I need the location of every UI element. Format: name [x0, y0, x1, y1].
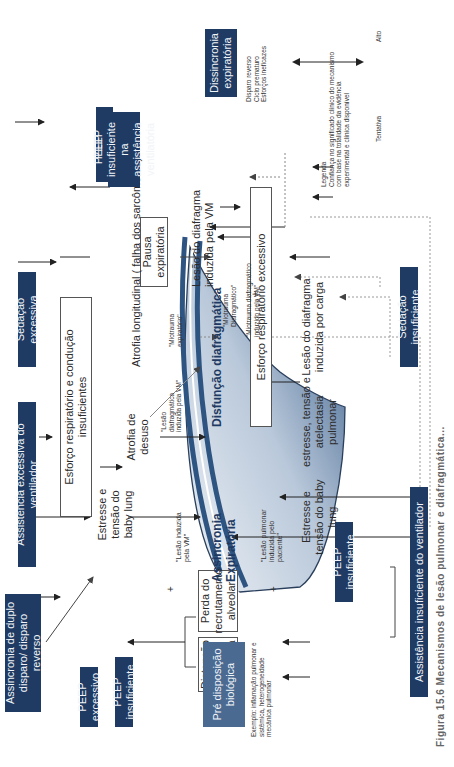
legend-text: Confiança no significado clínico do meca… [328, 47, 351, 187]
cause-sedacao-insuficiente: Sedação insuficiente [400, 267, 418, 367]
cause-dissincronia-expiratoria: Dissincronia expiratória [205, 29, 237, 97]
box-esforco-insuficientes: Esforço respiratório e condução insufici… [60, 297, 92, 517]
legend-low-label: Tentativa [375, 116, 383, 142]
legend-title: Legenda [320, 47, 328, 187]
cause-peep-insuficiente-assistencia-label: PEEP insuficiente na assistência ventila… [92, 116, 157, 183]
figure-caption: Figura 15.6 Mecanismos de lesão pulmonar… [435, 247, 446, 747]
label-miotrauma-expiratorio: "Miotrauma expiratório" [168, 297, 183, 347]
cause-peep-insuficiente-assistencia: PEEP insuficiente na assistência ventila… [108, 112, 140, 187]
cause-assincronia-duplo-disparo: Assincronia de duplo disparo/ disparo re… [5, 594, 41, 712]
cause-dissincronia-expiratoria-label: Dissincronia expiratória [208, 33, 234, 93]
cause-assistencia-excessiva-label: Assistência excessiva do ventilador [14, 406, 40, 563]
label-atrofia-desuso: Atrofia de desuso [125, 407, 151, 467]
cause-peep-insuficiente-label: PEEP insuficiente [111, 661, 137, 723]
cause-sedacao-excessiva-label: Sedação excessiva [14, 276, 40, 363]
dissincronia-item: Ciclo prematuro [253, 22, 261, 102]
label-lesao-diafragmatica-vm: "Lesão diafragmática induzida pela VM" [160, 372, 183, 432]
diagram-canvas: Assincronia de duplo disparo/ disparo re… [0, 0, 454, 767]
label-disfuncao-diafragmatica: Disfunção diafragmática [210, 277, 224, 427]
predisposicao-example: Exemplo: inflamação pulmonar e sistêmica… [250, 637, 273, 737]
legend-high-label: Alto [375, 31, 383, 42]
cause-predisposicao-biologica-label: Pré disposição biológica [211, 646, 237, 723]
cause-predisposicao-biologica: Pré disposição biológica [203, 642, 245, 727]
label-estresse-atelectasia: estresse, tensão e atelectasia pulmonar [300, 372, 339, 472]
label-miotrauma-diafragmatico: "Miotrauma Diafragmático" [222, 272, 237, 327]
label-lesao-diafragma-vm: Lesão do diafragma induzida pela VM [190, 172, 216, 287]
label-lesao-diafragma-carga: Lesão do diafragma induzida por carga [300, 277, 326, 377]
cause-assistencia-excessiva: Assistência excessiva do ventilador [18, 402, 36, 567]
box-pausa-expiratoria-label: Pausa expiratória [141, 222, 167, 282]
dissincronia-item: Esforços ineficazes [260, 22, 268, 102]
label-lesao-pulmonar-paciente: "Lesão pulmonar induzida pelo paciente" [260, 507, 284, 562]
plus-sign: + [250, 291, 261, 297]
label-lesao-induzida-vm: "Lesão induzida pela VM" [175, 512, 191, 562]
cause-peep-insuficiente-2-label: PEEP insuficiente [331, 526, 357, 598]
cause-peep-insuficiente: PEEP insuficiente [115, 657, 133, 727]
cause-sedacao-insuficiente-label: Sedação insuficiente [396, 271, 422, 363]
label-estresse-baby-lung-top: Estresse e tensão do baby lung [96, 477, 135, 552]
cause-assistencia-insuficiente-label: Assistência insuficiente do ventilador [413, 502, 426, 682]
cause-peep-insuficiente-2: PEEP insuficiente [335, 522, 353, 602]
cause-assistencia-insuficiente: Assistência insuficiente do ventilador [410, 487, 428, 697]
plus-sign: + [165, 586, 176, 592]
plus-sign: + [268, 586, 279, 592]
label-assincronia-expiratoria: Assincronia Expiratória [210, 452, 238, 582]
dissincronia-item: Disparo reverso [245, 22, 253, 102]
cause-peep-excessivo: PEEP excessivo [80, 667, 98, 727]
cause-sedacao-excessiva: Sedação excessiva [18, 272, 36, 367]
cause-assincronia-duplo-disparo-label: Assincronia de duplo disparo/ disparo re… [4, 598, 43, 708]
legend: Legenda Confiança no significado clínico… [320, 47, 350, 187]
cause-peep-excessivo-label: PEEP excessivo [76, 671, 102, 723]
box-pausa-expiratoria: Pausa expiratória [140, 217, 168, 287]
box-esforco-insuficientes-label: Esforço respiratório e condução insufici… [63, 302, 89, 512]
dissincronia-items: Disparo reverso Ciclo prematuro Esforços… [245, 22, 268, 102]
